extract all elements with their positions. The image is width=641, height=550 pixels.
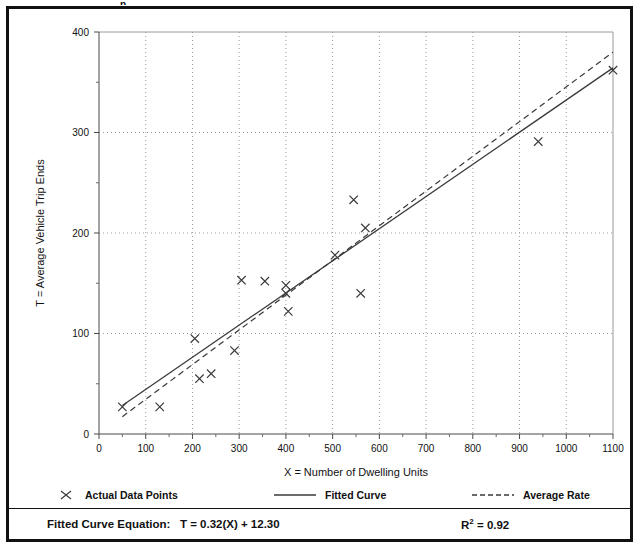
y-axis-title: T = Average Vehicle Trip Ends [34, 159, 46, 307]
data-point-marker [207, 370, 215, 378]
x-tick-label: 500 [324, 443, 341, 454]
data-point-marker [534, 137, 542, 145]
legend-item-average-rate: Average Rate [471, 482, 590, 508]
legend-label-fitted-curve: Fitted Curve [325, 489, 386, 501]
fitted-curve-equation: Fitted Curve Equation: T = 0.32(X) + 12.… [47, 518, 280, 530]
y-tick-label: 0 [83, 429, 89, 440]
y-tick-label: 400 [72, 27, 89, 38]
fitted-curve-line [122, 68, 613, 406]
data-point-marker [284, 307, 292, 315]
r2-exponent: 2 [469, 517, 473, 526]
legend-label-average-rate: Average Rate [523, 489, 590, 501]
r-squared-value: R2 = 0.92 [461, 517, 509, 531]
chart-footer: Fitted Curve Equation: T = 0.32(X) + 12.… [9, 509, 630, 539]
x-tick-label: 0 [96, 443, 102, 454]
y-tick-label: 100 [72, 328, 89, 339]
chart-legend: Actual Data Points Fitted Curve Average … [9, 482, 630, 508]
data-point-marker [195, 375, 203, 383]
data-point-marker [349, 196, 357, 204]
dashed-line-icon [471, 488, 515, 502]
solid-line-icon [273, 488, 317, 502]
data-point-marker [191, 334, 199, 342]
x-tick-label: 800 [464, 443, 481, 454]
equation-label: Fitted Curve Equation: [47, 518, 170, 530]
x-tick-label: 200 [184, 443, 201, 454]
x-axis-title: X = Number of Dwelling Units [284, 466, 428, 478]
scatter-plot: 0100200300400500600700800900100011000100… [0, 0, 641, 550]
x-tick-label: 1100 [602, 443, 624, 454]
y-tick-label: 300 [72, 127, 89, 138]
legend-item-actual-data-points: Actual Data Points [57, 482, 178, 508]
x-tick-label: 400 [278, 443, 295, 454]
data-point-marker [261, 277, 269, 285]
legend-item-fitted-curve: Fitted Curve [273, 482, 386, 508]
y-tick-label: 200 [72, 228, 89, 239]
data-point-marker [237, 276, 245, 284]
x-tick-label: 900 [511, 443, 528, 454]
x-tick-label: 100 [137, 443, 154, 454]
data-point-marker [361, 224, 369, 232]
data-point-marker [156, 403, 164, 411]
chart-page: p 01002003004005006007008009001000110001… [0, 0, 641, 550]
legend-label-actual-data-points: Actual Data Points [85, 489, 178, 501]
x-marker-icon [57, 488, 77, 502]
equation-value: T = 0.32(X) + 12.30 [180, 518, 280, 530]
data-point-marker [356, 289, 364, 297]
x-tick-label: 600 [371, 443, 388, 454]
r2-number: = 0.92 [477, 519, 509, 531]
average-rate-line [122, 52, 613, 416]
x-tick-label: 1000 [555, 443, 578, 454]
x-tick-label: 300 [231, 443, 248, 454]
x-tick-label: 700 [418, 443, 435, 454]
data-point-marker [230, 346, 238, 354]
